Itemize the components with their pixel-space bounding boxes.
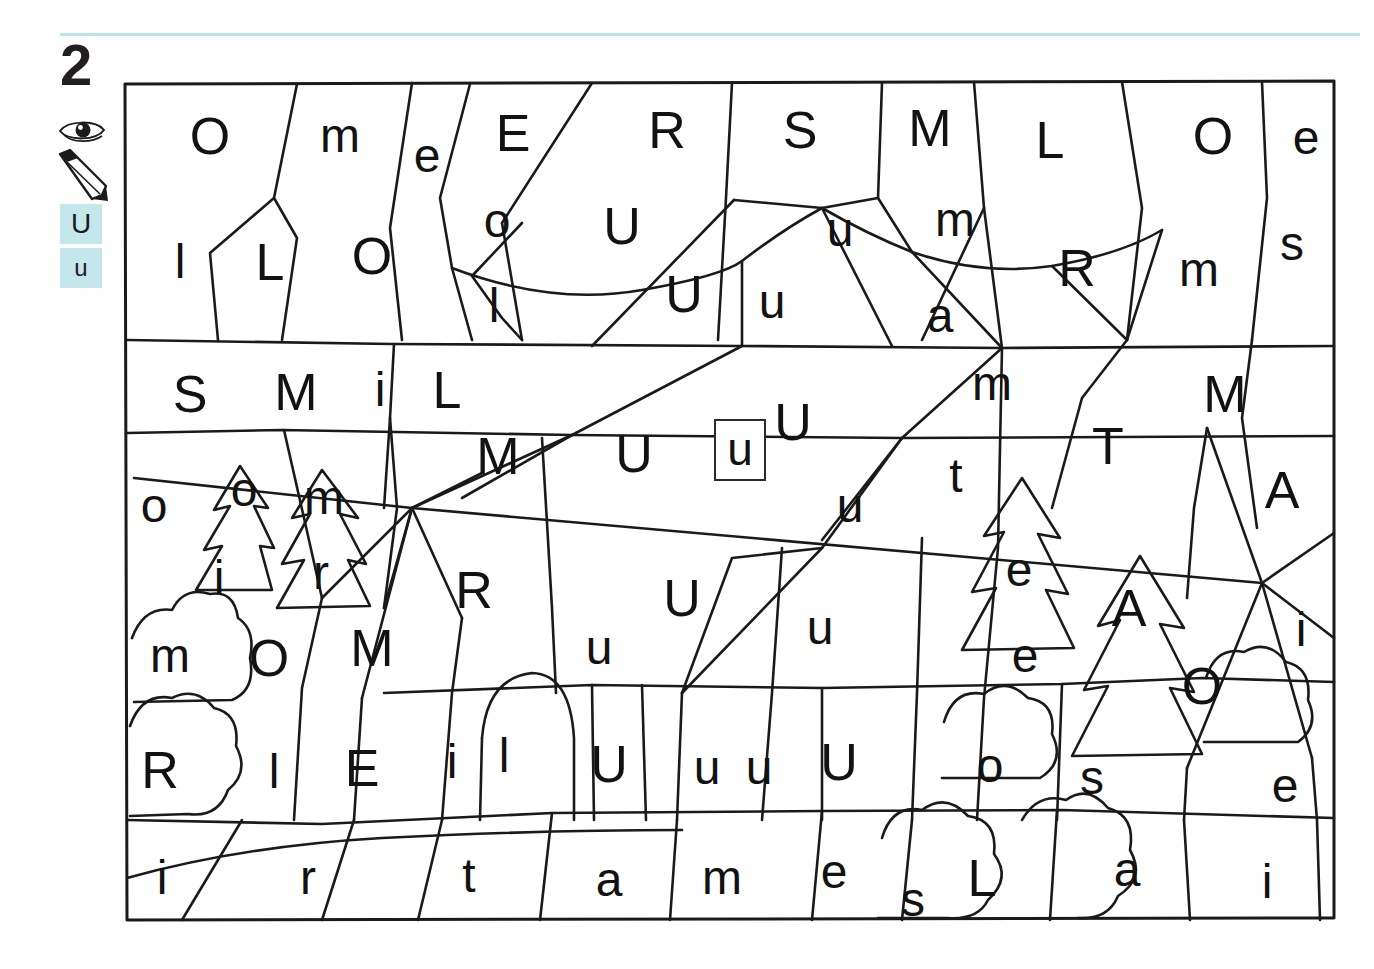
pencil-icon bbox=[56, 148, 112, 204]
letter-cell[interactable]: U bbox=[603, 200, 641, 252]
letter-cell[interactable]: i bbox=[1262, 858, 1273, 906]
letter-cell[interactable]: L bbox=[433, 364, 462, 416]
letter-cell[interactable]: o bbox=[141, 482, 168, 530]
letter-cell[interactable]: U bbox=[663, 572, 701, 624]
letter-cell[interactable]: U bbox=[774, 396, 812, 448]
letter-cell[interactable]: u bbox=[837, 482, 864, 530]
letter-cell[interactable]: O bbox=[1182, 660, 1222, 712]
letter-cell[interactable]: O bbox=[1193, 110, 1233, 162]
letter-cell[interactable]: L bbox=[968, 852, 997, 904]
letter-cell[interactable]: r bbox=[313, 549, 329, 597]
letter-cell[interactable]: U bbox=[665, 268, 703, 320]
letter-cell[interactable]: T bbox=[1092, 420, 1124, 472]
letter-cell[interactable]: R bbox=[1058, 242, 1096, 294]
letter-cell[interactable]: u bbox=[807, 604, 834, 652]
letter-cell[interactable]: a bbox=[1114, 846, 1141, 894]
letter-cell[interactable]: e bbox=[1293, 114, 1320, 162]
letter-cell[interactable]: U bbox=[590, 738, 628, 790]
letter-cell[interactable]: s bbox=[1080, 754, 1104, 802]
letter-cell[interactable]: S bbox=[783, 104, 818, 156]
letter-cell[interactable]: i bbox=[1296, 606, 1307, 654]
letter-cell[interactable]: R bbox=[455, 564, 493, 616]
letter-puzzle-picture[interactable]: OmeERSMLOelLOolUUuumaRmsSMiLMUUumtTMAoom… bbox=[122, 78, 1337, 923]
eye-icon bbox=[58, 116, 106, 144]
letter-cell[interactable]: a bbox=[596, 856, 623, 904]
target-letter-lowercase: u bbox=[60, 248, 102, 288]
letter-cell[interactable]: O bbox=[352, 230, 392, 282]
letter-cell[interactable]: m bbox=[304, 474, 344, 522]
letter-cell[interactable]: m bbox=[935, 196, 975, 244]
letter-cell[interactable]: M bbox=[908, 102, 951, 154]
letter-cell[interactable]: l bbox=[269, 748, 280, 796]
letter-cell[interactable]: U bbox=[615, 428, 653, 480]
letter-cell[interactable]: i bbox=[214, 554, 225, 602]
letter-cell[interactable]: L bbox=[1036, 114, 1065, 166]
letter-cell[interactable]: o bbox=[231, 466, 258, 514]
letter-cell[interactable]: i bbox=[157, 854, 168, 902]
letter-cell[interactable]: M bbox=[476, 430, 519, 482]
letter-cell[interactable]: e bbox=[1272, 762, 1299, 810]
letter-cell[interactable]: O bbox=[249, 632, 289, 684]
letter-cell[interactable]: u bbox=[827, 206, 854, 254]
letter-cell[interactable]: S bbox=[173, 368, 208, 420]
letter-cell[interactable]: t bbox=[949, 452, 962, 500]
letter-cell[interactable]: u bbox=[694, 744, 721, 792]
letter-cell[interactable]: o bbox=[484, 197, 511, 245]
letter-cell[interactable]: m bbox=[1179, 246, 1219, 294]
letter-cell[interactable]: M bbox=[274, 366, 317, 418]
letter-cells: OmeERSMLOelLOolUUuumaRmsSMiLMUUumtTMAoom… bbox=[122, 78, 1337, 923]
letter-cell[interactable]: u bbox=[586, 624, 613, 672]
letter-cell[interactable]: E bbox=[345, 742, 380, 794]
worksheet-page: 2 U u bbox=[0, 0, 1374, 969]
letter-cell[interactable]: l bbox=[175, 238, 186, 286]
exercise-number: 2 bbox=[60, 36, 91, 94]
letter-cell[interactable]: m bbox=[150, 632, 190, 680]
letter-cell[interactable]: M bbox=[350, 622, 393, 674]
letter-cell[interactable]: m bbox=[702, 854, 742, 902]
sample-highlighted-letter-cell[interactable]: u bbox=[714, 419, 766, 481]
letter-cell[interactable]: L bbox=[256, 236, 285, 288]
letter-cell[interactable]: a bbox=[927, 292, 954, 340]
letter-cell[interactable]: m bbox=[972, 360, 1012, 408]
letter-cell[interactable]: o bbox=[977, 742, 1004, 790]
letter-cell[interactable]: A bbox=[1112, 582, 1147, 634]
letter-cell[interactable]: e bbox=[821, 848, 848, 896]
letter-cell[interactable]: M bbox=[1203, 368, 1246, 420]
letter-cell[interactable]: s bbox=[1280, 220, 1304, 268]
letter-cell[interactable]: e bbox=[1006, 546, 1033, 594]
letter-cell[interactable]: s bbox=[901, 876, 925, 924]
top-divider-rule bbox=[60, 33, 1360, 36]
letter-cell[interactable]: E bbox=[496, 107, 531, 159]
letter-cell[interactable]: m bbox=[320, 112, 360, 160]
letter-cell[interactable]: i bbox=[447, 738, 458, 786]
letter-cell[interactable]: l bbox=[499, 732, 510, 780]
letter-cell[interactable]: t bbox=[462, 852, 475, 900]
target-letter-uppercase: U bbox=[60, 204, 102, 244]
letter-cell[interactable]: e bbox=[1012, 632, 1039, 680]
letter-cell[interactable]: l bbox=[489, 282, 500, 330]
letter-cell[interactable]: u bbox=[746, 744, 773, 792]
letter-cell[interactable]: R bbox=[648, 104, 686, 156]
letter-cell[interactable]: u bbox=[759, 278, 786, 326]
letter-cell[interactable]: e bbox=[414, 132, 441, 180]
letter-cell[interactable]: r bbox=[300, 854, 316, 902]
letter-cell[interactable]: U bbox=[820, 736, 858, 788]
letter-cell[interactable]: O bbox=[190, 110, 230, 162]
letter-cell[interactable]: i bbox=[375, 366, 386, 414]
exercise-margin-column: 2 U u bbox=[52, 36, 122, 296]
letter-cell[interactable]: A bbox=[1265, 464, 1300, 516]
letter-cell[interactable]: R bbox=[141, 744, 179, 796]
